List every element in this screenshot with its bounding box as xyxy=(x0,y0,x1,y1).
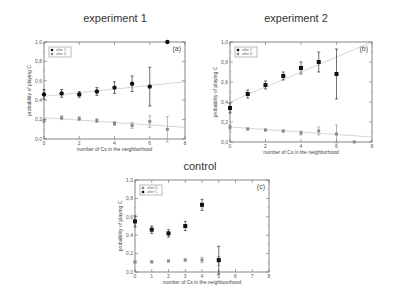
data-point xyxy=(133,219,137,223)
data-point xyxy=(167,231,171,235)
y-tick-label: 0,4 xyxy=(221,99,228,105)
data-point xyxy=(281,74,285,78)
data-point xyxy=(131,124,134,127)
legend-entry: after C xyxy=(147,190,158,194)
data-point xyxy=(282,130,285,133)
x-tick-label: 8 xyxy=(268,273,271,279)
figure-canvas: 0,00,20,40,60,81,002468number of Cs in t… xyxy=(0,0,397,296)
data-point xyxy=(150,260,153,263)
data-point xyxy=(229,126,232,129)
y-tick-label: 1,0 xyxy=(126,177,133,183)
y-tick-label: 0,2 xyxy=(221,119,228,125)
y-tick-label: 0,0 xyxy=(221,139,228,145)
x-tick-label: 7 xyxy=(251,273,254,279)
data-point xyxy=(59,91,63,95)
data-point xyxy=(134,260,137,263)
y-tick-label: 0,6 xyxy=(35,78,42,84)
y-tick-label: 0,6 xyxy=(126,214,133,220)
data-point xyxy=(299,66,303,70)
y-tick-label: 0,4 xyxy=(126,232,133,238)
x-tick-label: 1 xyxy=(150,273,153,279)
x-tick-label: 0 xyxy=(229,143,232,149)
data-point xyxy=(228,106,232,110)
data-point xyxy=(42,92,46,96)
data-point xyxy=(217,258,221,262)
y-axis-label: probability of playing C xyxy=(212,66,218,117)
data-point xyxy=(167,259,170,262)
legend-entry: after D xyxy=(242,52,253,56)
data-point xyxy=(317,130,320,133)
y-tick-label: 0,8 xyxy=(35,58,42,64)
x-axis-label: number of Cs in the neighborhood xyxy=(77,146,153,152)
x-axis-label: number of Cs in the neighborhood xyxy=(263,149,339,155)
y-tick-label: 0,0 xyxy=(126,269,133,275)
data-point xyxy=(246,92,250,96)
data-point xyxy=(166,128,169,131)
panel-label: (c) xyxy=(257,183,265,191)
y-tick-label: 1,0 xyxy=(35,39,42,45)
y-tick-label: 0,0 xyxy=(35,136,42,142)
y-tick-label: 0,4 xyxy=(35,97,42,103)
data-point xyxy=(201,259,204,262)
data-point xyxy=(300,132,303,135)
data-point xyxy=(150,228,154,232)
legend-entry: after D xyxy=(56,52,67,56)
data-point xyxy=(95,119,98,122)
data-point xyxy=(264,83,268,87)
data-point xyxy=(60,116,63,119)
data-point xyxy=(95,89,99,93)
data-point xyxy=(200,203,204,207)
y-tick-label: 0,2 xyxy=(35,116,42,122)
legend: after Cafter D xyxy=(235,47,257,57)
x-tick-label: 0 xyxy=(134,273,137,279)
data-point xyxy=(335,72,339,76)
data-point xyxy=(184,259,187,262)
data-point xyxy=(78,117,81,120)
data-point xyxy=(148,84,152,88)
data-point xyxy=(317,60,321,64)
y-tick-label: 0,6 xyxy=(221,79,228,85)
x-tick-label: 8 xyxy=(184,140,187,146)
y-tick-label: 0,2 xyxy=(126,250,133,256)
data-point xyxy=(113,122,116,125)
series-after-D xyxy=(134,256,221,265)
chart-panel-b: 0,00,20,40,60,81,002468number of Cs in t… xyxy=(212,39,374,155)
data-point xyxy=(246,128,249,131)
panel-label: (a) xyxy=(172,45,181,53)
y-tick-label: 0,8 xyxy=(126,195,133,201)
data-point xyxy=(77,92,81,96)
x-tick-label: 0 xyxy=(43,140,46,146)
data-point xyxy=(165,40,169,44)
data-point xyxy=(183,224,187,228)
legend: after Dafter C xyxy=(140,185,162,195)
data-point xyxy=(112,85,116,89)
series-after-D xyxy=(229,125,373,144)
data-point xyxy=(264,129,267,132)
legend: after Cafter D xyxy=(49,47,71,57)
series-after-C xyxy=(133,199,221,274)
x-axis-label: number of Cs in the neighbourhood xyxy=(163,279,242,285)
y-axis-label: probability of playing C xyxy=(26,65,32,116)
data-point xyxy=(43,119,46,122)
chart-panel-c: 0,00,20,40,60,81,0012345678number of Cs … xyxy=(117,177,271,285)
series-after-D xyxy=(43,116,186,142)
data-point xyxy=(335,133,338,136)
y-axis-label: probability of playing C xyxy=(117,200,123,251)
chart-panel-a: 0,00,20,40,60,81,002468number of Cs in t… xyxy=(26,39,187,152)
data-point xyxy=(148,120,151,123)
data-point xyxy=(353,141,356,144)
y-tick-label: 0,8 xyxy=(221,59,228,65)
x-tick-label: 8 xyxy=(371,143,374,149)
panel-label: (b) xyxy=(359,45,368,53)
y-tick-label: 1,0 xyxy=(221,39,228,45)
data-point xyxy=(130,82,134,86)
